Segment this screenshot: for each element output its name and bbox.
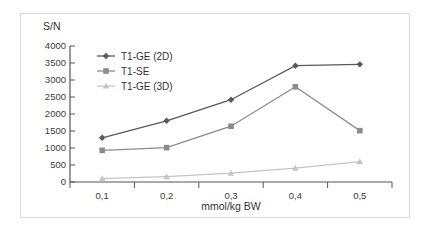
series-layer xyxy=(99,61,363,181)
y-tick-label: 4000 xyxy=(45,40,66,51)
legend-item-1: T1-GE (2D) xyxy=(97,51,173,62)
data-point-marker xyxy=(103,53,109,59)
x-tick-label: 0,2 xyxy=(160,190,173,201)
y-tick-label: 3500 xyxy=(45,57,66,68)
y-tick-label: 2000 xyxy=(45,108,66,119)
x-tick-label: 0,5 xyxy=(353,190,366,201)
y-tick-label: 0 xyxy=(61,176,66,187)
data-point-marker xyxy=(357,128,363,134)
legend-label: T1-GE (3D) xyxy=(121,81,173,92)
series-2 xyxy=(99,84,362,153)
data-point-marker xyxy=(163,118,169,124)
legend-label: T1-GE (2D) xyxy=(121,51,173,62)
legend-label: T1-SE xyxy=(121,66,150,77)
y-tick-labels: 40003500300025002000150010005000 xyxy=(45,40,66,187)
data-point-marker xyxy=(357,61,363,67)
data-point-marker xyxy=(99,135,105,141)
data-point-marker xyxy=(228,97,234,103)
data-point-marker xyxy=(99,148,105,154)
series-line xyxy=(102,87,360,151)
x-tick-label: 0,4 xyxy=(289,190,302,201)
series-3 xyxy=(99,158,363,181)
x-axis-title: mmol/kg BW xyxy=(201,200,261,212)
y-tick-label: 3000 xyxy=(45,74,66,85)
y-tick-label: 1000 xyxy=(45,142,66,153)
y-tick-label: 500 xyxy=(50,159,66,170)
y-tick-marks xyxy=(70,46,75,182)
y-tick-label: 2500 xyxy=(45,91,66,102)
sn-dose-response-chart: S/N 40003500300025002000150010005000 0,1… xyxy=(0,0,432,231)
legend-item-3: T1-GE (3D) xyxy=(97,81,173,92)
y-tick-label: 1500 xyxy=(45,125,66,136)
x-tick-marks xyxy=(70,182,392,188)
x-tick-label: 0,1 xyxy=(96,190,109,201)
data-point-marker xyxy=(164,145,170,151)
data-point-marker xyxy=(103,68,109,74)
data-point-marker xyxy=(228,123,234,129)
data-point-marker xyxy=(292,63,298,69)
chart-legend: T1-GE (2D)T1-SET1-GE (3D) xyxy=(97,51,173,92)
legend-item-2: T1-SE xyxy=(97,66,150,77)
y-axis-label: S/N xyxy=(43,20,61,32)
data-point-marker xyxy=(293,84,299,90)
